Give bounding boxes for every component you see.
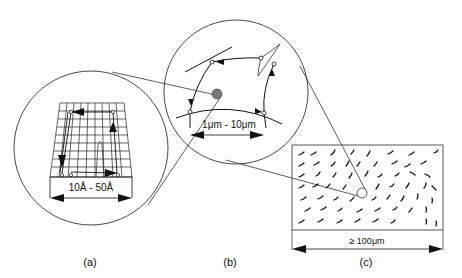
zoom-circle-a	[14, 71, 168, 225]
zoom-circle-b	[164, 20, 308, 164]
panel-label-a: (a)	[83, 256, 96, 268]
network-arrows	[188, 59, 275, 114]
network-nodes	[188, 56, 276, 115]
zoom-region-marker-c	[357, 188, 367, 198]
zoom-connector-lines	[112, 66, 365, 205]
panel-a: 10Å - 50Å	[14, 71, 168, 225]
specimen-box	[292, 145, 443, 230]
scale-label-a: 10Å - 50Å	[69, 181, 114, 193]
dislocation-network	[176, 44, 282, 128]
scale-label-b: 1μm - 10μm	[202, 119, 256, 130]
panel-b: 1μm - 10μm	[164, 20, 308, 164]
dislocation-segments	[299, 150, 438, 226]
scale-label-c: ≥ 100μm	[349, 236, 384, 246]
panel-label-b: (b)	[223, 256, 236, 268]
panel-c: ≥ 100μm	[292, 145, 443, 253]
panel-label-c: (c)	[360, 256, 373, 268]
multiscale-diagram: 10Å - 50Å 1μm - 10μ	[0, 0, 462, 278]
zoom-region-marker	[212, 89, 222, 99]
dislocation-loop	[60, 112, 117, 173]
